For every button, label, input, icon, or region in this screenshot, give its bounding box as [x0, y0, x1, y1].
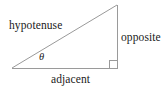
opposite-label: opposite	[121, 31, 161, 43]
adjacent-label: adjacent	[51, 73, 90, 85]
right-angle-marker-icon	[110, 61, 118, 69]
trigonometry-diagram: hypotenuse opposite adjacent θ	[0, 0, 166, 91]
theta-angle-label: θ	[39, 51, 44, 63]
hypotenuse-line	[12, 5, 117, 68]
hypotenuse-label: hypotenuse	[9, 19, 62, 31]
